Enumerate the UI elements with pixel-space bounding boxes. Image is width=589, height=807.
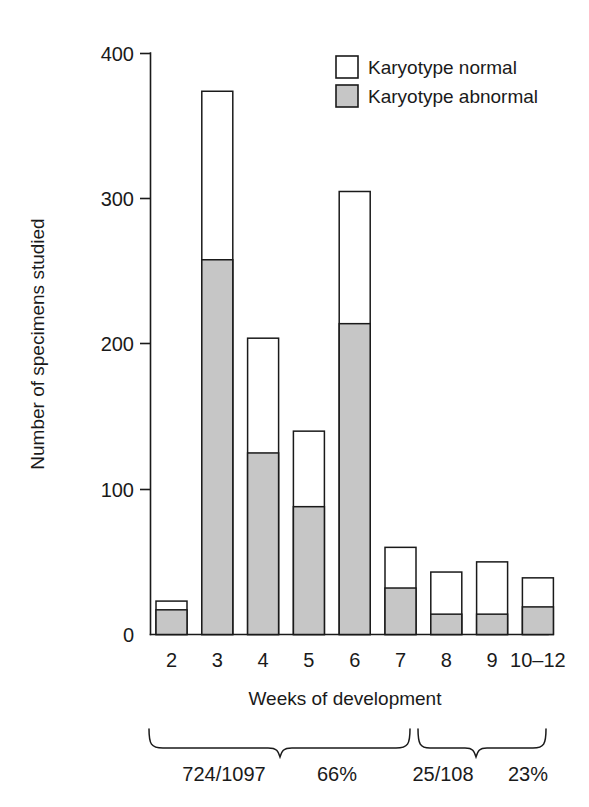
y-tick-label-200: 200 — [101, 333, 134, 355]
bar-segment-abnormal — [431, 614, 462, 634]
bar-group — [431, 572, 462, 634]
x-tick-label: 4 — [258, 649, 269, 671]
y-tick-label-100: 100 — [101, 479, 134, 501]
bar-segment-abnormal — [385, 588, 416, 634]
y-axis: 400 300 200 100 0 Number of specimens st… — [27, 43, 151, 646]
bar-group — [522, 578, 553, 635]
annotation-group-late: 25/108 23% — [412, 729, 548, 785]
bar-segment-abnormal — [202, 260, 233, 635]
bar-segment-abnormal — [477, 614, 508, 634]
y-tick-label-300: 300 — [101, 188, 134, 210]
bar-group — [202, 91, 233, 634]
x-tick-labels: 2345678910–12 — [166, 649, 566, 671]
brace-late-icon — [418, 729, 546, 757]
y-tick-label-400: 400 — [101, 43, 134, 65]
annotation-percent-early: 66% — [317, 763, 357, 785]
y-axis-title: Number of specimens studied — [27, 218, 48, 469]
bar-group — [248, 338, 279, 634]
x-tick-label: 9 — [487, 649, 498, 671]
bar-group — [156, 601, 187, 634]
x-tick-label: 7 — [395, 649, 406, 671]
x-tick-label: 6 — [349, 649, 360, 671]
x-axis-title: Weeks of development — [249, 688, 443, 709]
legend-label-abnormal: Karyotype abnormal — [368, 86, 538, 107]
legend-swatch-normal-icon — [336, 56, 358, 78]
bar-segment-abnormal — [156, 610, 187, 635]
y-tick-label-0: 0 — [123, 624, 134, 646]
x-tick-label: 8 — [441, 649, 452, 671]
bar-group — [477, 562, 508, 635]
chart-figure: 400 300 200 100 0 Number of specimens st… — [0, 0, 589, 807]
bar-segment-abnormal — [339, 324, 370, 635]
bar-segment-abnormal — [293, 507, 324, 635]
bars-layer — [156, 91, 553, 634]
annotation-group-early: 724/1097 66% — [149, 729, 410, 785]
x-tick-label: 3 — [212, 649, 223, 671]
bar-group — [339, 191, 370, 634]
bar-segment-abnormal — [522, 607, 553, 635]
annotation-ratio-early: 724/1097 — [182, 763, 265, 785]
legend: Karyotype normal Karyotype abnormal — [336, 56, 538, 107]
x-tick-label: 2 — [166, 649, 177, 671]
legend-swatch-abnormal-icon — [336, 85, 358, 107]
bar-group — [385, 547, 416, 634]
legend-label-normal: Karyotype normal — [368, 57, 517, 78]
brace-early-icon — [149, 729, 410, 757]
bar-group — [293, 431, 324, 634]
x-tick-label: 5 — [303, 649, 314, 671]
bar-segment-abnormal — [248, 453, 279, 635]
x-tick-label: 10–12 — [510, 649, 566, 671]
annotation-percent-late: 23% — [508, 763, 548, 785]
bar-chart-svg: 400 300 200 100 0 Number of specimens st… — [0, 0, 589, 807]
annotation-ratio-late: 25/108 — [412, 763, 473, 785]
